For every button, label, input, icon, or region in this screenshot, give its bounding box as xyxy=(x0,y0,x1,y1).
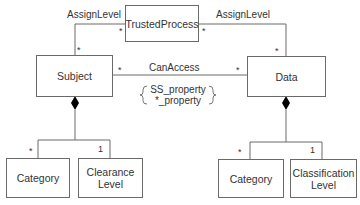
association-label-assign-level-left: AssignLevel xyxy=(67,9,121,20)
class-data-category: Category xyxy=(218,159,284,198)
multiplicity: 1 xyxy=(310,145,315,155)
multiplicity: * xyxy=(275,46,279,56)
class-label: Classification Level xyxy=(293,167,355,191)
class-label: TrustedProcess xyxy=(125,18,198,30)
association-label-assign-level-right: AssignLevel xyxy=(216,9,270,20)
multiplicity: * xyxy=(119,26,123,36)
multiplicity: * xyxy=(29,146,33,156)
association-label-can-access: CanAccess xyxy=(149,62,200,73)
class-clearance-level: Clearance Level xyxy=(78,158,143,198)
multiplicity: * xyxy=(77,45,81,55)
class-trusted-process: TrustedProcess xyxy=(125,5,199,42)
class-subject: Subject xyxy=(36,55,113,97)
class-data: Data xyxy=(247,56,326,97)
class-label: Data xyxy=(275,71,297,83)
constraint-note: SS_property *_property xyxy=(146,84,210,106)
class-label: Category xyxy=(17,172,60,184)
class-subject-category: Category xyxy=(6,158,70,198)
class-label: Category xyxy=(230,173,273,185)
constraint-line: *_property xyxy=(146,95,210,106)
multiplicity: * xyxy=(236,65,240,75)
composition-diamond-icon xyxy=(71,96,79,110)
multiplicity: * xyxy=(202,26,206,36)
composition-diamond-icon xyxy=(282,96,290,110)
class-label: Clearance Level xyxy=(87,166,135,190)
class-label: Subject xyxy=(57,70,92,82)
multiplicity: * xyxy=(118,65,122,75)
constraint-line: SS_property xyxy=(146,84,210,95)
class-classification-level: Classification Level xyxy=(290,159,357,198)
multiplicity: 1 xyxy=(98,144,103,154)
multiplicity: * xyxy=(238,147,242,157)
